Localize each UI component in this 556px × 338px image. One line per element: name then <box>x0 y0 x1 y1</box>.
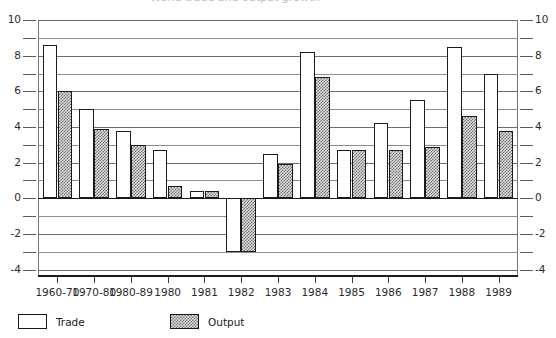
bar-trade <box>43 45 58 198</box>
x-axis-label: 1987 <box>412 286 439 298</box>
bar-group <box>260 20 297 275</box>
y-tick-right <box>520 180 533 181</box>
legend-label-trade: Trade <box>56 316 85 328</box>
bar-trade <box>190 191 205 198</box>
x-tick <box>388 276 389 283</box>
y-tick-right <box>520 198 533 199</box>
y-axis-label-right: -2 <box>535 227 545 239</box>
bar-trade <box>153 150 168 198</box>
y-tick-left <box>23 127 36 128</box>
y-tick-left <box>23 163 36 164</box>
x-axis-label: 1980 <box>154 286 181 298</box>
bar-trade <box>337 150 352 198</box>
y-tick-right <box>520 91 533 92</box>
y-tick-left <box>23 252 36 253</box>
legend-label-output: Output <box>208 316 244 328</box>
bar-trade <box>263 154 278 199</box>
legend-swatch-output <box>170 314 199 329</box>
x-tick <box>278 276 279 283</box>
bar-output <box>205 191 220 198</box>
y-axis-label-right: 2 <box>535 156 542 168</box>
y-tick-left <box>23 216 36 217</box>
bar-trade <box>374 123 389 198</box>
x-axis-label: 1983 <box>265 286 292 298</box>
y-tick-right <box>520 270 533 271</box>
bar-group <box>186 20 223 275</box>
x-axis-labels: 1960-701970-801980-891980198119821983198… <box>0 286 556 302</box>
y-tick-right <box>520 234 533 235</box>
x-tick <box>425 276 426 283</box>
x-axis-label: 1985 <box>338 286 365 298</box>
bar-output <box>58 91 73 198</box>
y-tick-right <box>520 56 533 57</box>
chart-page: World trade and output growth 1010886644… <box>0 0 556 338</box>
y-tick-left <box>23 91 36 92</box>
y-axis-label-left: 6 <box>14 84 21 96</box>
x-tick <box>168 276 169 283</box>
y-axis-label-left: -4 <box>11 263 21 275</box>
y-axis-label-left: 4 <box>14 120 21 132</box>
x-tick <box>499 276 500 283</box>
x-tick <box>57 276 58 283</box>
bar-output <box>352 150 367 198</box>
y-tick-left <box>23 20 36 21</box>
chart-title-cropped: World trade and output growth <box>0 0 556 5</box>
x-axis-line <box>38 275 518 277</box>
plot-right-border <box>517 20 518 275</box>
y-tick-left <box>23 38 36 39</box>
legend-item-output[interactable]: Output <box>170 314 244 329</box>
bar-series-container <box>39 20 517 275</box>
y-tick-right <box>520 145 533 146</box>
bar-group <box>407 20 444 275</box>
legend-item-trade[interactable]: Trade <box>18 314 85 329</box>
bar-output <box>168 186 183 198</box>
y-tick-left <box>23 109 36 110</box>
bar-group <box>296 20 333 275</box>
x-axis-label: 1989 <box>485 286 512 298</box>
y-axis-label-right: 0 <box>535 191 542 203</box>
y-axis-label-right: 10 <box>535 13 548 25</box>
x-tick <box>94 276 95 283</box>
bar-output <box>425 147 440 199</box>
y-axis-label-left: 10 <box>8 13 21 25</box>
y-tick-left <box>23 180 36 181</box>
y-axis-label-right: -4 <box>535 263 545 275</box>
y-tick-right <box>520 216 533 217</box>
y-tick-right <box>520 109 533 110</box>
bar-output <box>462 116 477 198</box>
y-tick-right <box>520 252 533 253</box>
bar-trade <box>410 100 425 198</box>
legend-swatch-trade <box>18 314 47 329</box>
x-tick <box>131 276 132 283</box>
y-axis-label-right: 4 <box>535 120 542 132</box>
y-axis-label-left: 8 <box>14 49 21 61</box>
y-tick-left <box>23 234 36 235</box>
bar-group <box>39 20 76 275</box>
y-axis-label-left: -2 <box>11 227 21 239</box>
bar-output <box>241 198 256 252</box>
y-tick-left <box>23 145 36 146</box>
bar-group <box>480 20 517 275</box>
y-axis-label-left: 2 <box>14 156 21 168</box>
x-axis-label: 1981 <box>191 286 218 298</box>
x-axis-label: 1980-89 <box>109 286 153 298</box>
bar-group <box>333 20 370 275</box>
x-tick <box>241 276 242 283</box>
chart-title-text: World trade and output growth <box>150 0 320 4</box>
bar-trade <box>226 198 241 252</box>
bar-trade <box>79 109 94 198</box>
bar-output <box>499 131 514 199</box>
y-tick-left <box>23 198 36 199</box>
x-axis-label: 1988 <box>448 286 475 298</box>
bar-output <box>389 150 404 198</box>
bar-output <box>315 77 330 198</box>
bar-group <box>370 20 407 275</box>
y-tick-right <box>520 74 533 75</box>
y-tick-right <box>520 163 533 164</box>
y-tick-left <box>23 74 36 75</box>
x-axis-label: 1984 <box>301 286 328 298</box>
x-tick <box>204 276 205 283</box>
bar-output <box>131 145 146 199</box>
y-axis-label-left: 0 <box>14 191 21 203</box>
bar-group <box>443 20 480 275</box>
